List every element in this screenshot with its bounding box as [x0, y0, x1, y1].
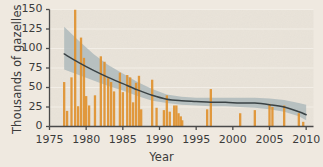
plot-canvas [0, 0, 323, 167]
gazelle-population-chart: Thousands of gazelles Year 0255075100125… [0, 0, 323, 167]
